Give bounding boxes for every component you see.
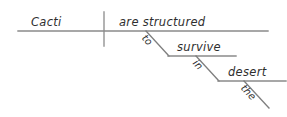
- sentence-diagram: Cacti are structured to survive in deser…: [0, 0, 287, 117]
- word-infinitive-verb: survive: [177, 42, 221, 54]
- word-verb: are structured: [119, 17, 205, 29]
- word-subject: Cacti: [31, 17, 62, 29]
- word-object-of-preposition: desert: [228, 67, 266, 79]
